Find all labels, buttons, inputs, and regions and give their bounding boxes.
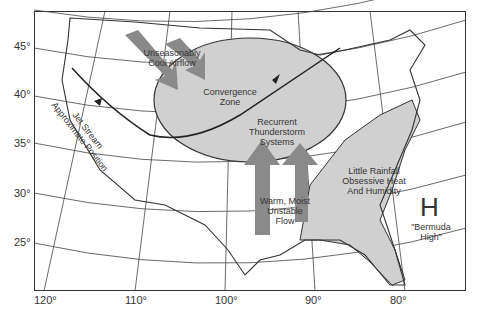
lat-label-35: 35° (14, 137, 31, 149)
us-weather-map (0, 0, 477, 312)
lon-label-80: 80° (390, 294, 407, 306)
lon-label-120: 120° (34, 294, 57, 306)
rainfall-heat-label: Little Rainfall Obsessive Heat And Humid… (340, 166, 408, 196)
lon-label-100: 100° (215, 294, 238, 306)
lon-label-110: 110° (125, 294, 147, 306)
lat-label-30: 30° (14, 187, 31, 199)
convergence-zone-label: Convergence Zone (200, 87, 260, 107)
warm-flow-label: Warm, Moist Unstable Flow (255, 196, 315, 226)
high-pressure-symbol: H (420, 192, 439, 223)
thunderstorm-label: Recurrent Thunderstorm Systems (242, 117, 312, 147)
lat-label-40: 40° (14, 88, 31, 100)
cool-airflow-label: Unseasonably Cool Airflow (137, 48, 207, 68)
lat-label-45: 45° (14, 40, 31, 52)
lat-label-25: 25° (14, 236, 31, 248)
lon-label-90: 90° (305, 294, 322, 306)
jet-arrow-icon (94, 98, 102, 106)
bermuda-high-label: "Bermuda High" (408, 222, 454, 242)
